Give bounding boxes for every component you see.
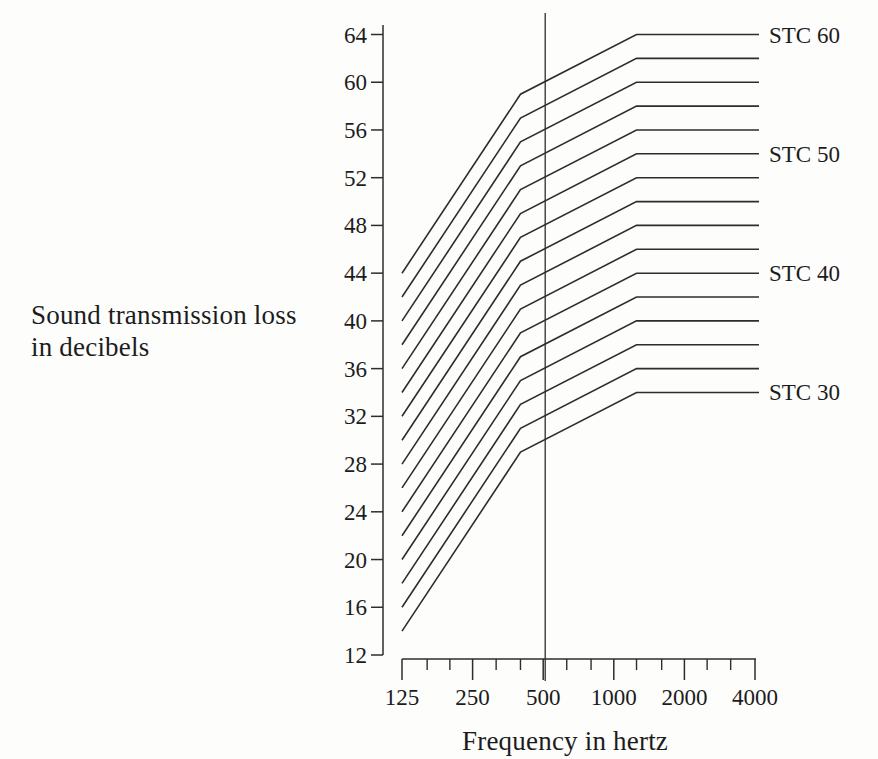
chart-canvas: STC 30STC 40STC 50STC 601216202428323640… bbox=[0, 0, 878, 759]
x-tick-label-2000: 2000 bbox=[661, 685, 707, 710]
y-tick-label-52: 52 bbox=[344, 166, 367, 191]
y-axis-title-line1: Sound transmission loss bbox=[31, 299, 297, 331]
x-tick-label-125: 125 bbox=[385, 685, 420, 710]
y-tick-label-60: 60 bbox=[344, 70, 367, 95]
stc-curve-32 bbox=[402, 369, 759, 608]
y-tick-label-44: 44 bbox=[344, 261, 368, 286]
y-tick-label-36: 36 bbox=[344, 357, 367, 382]
y-tick-label-40: 40 bbox=[344, 309, 367, 334]
stc-label-30: STC 30 bbox=[769, 380, 840, 405]
y-axis-title: Sound transmission loss in decibels bbox=[31, 299, 297, 363]
stc-curve-36 bbox=[402, 321, 759, 560]
y-tick-label-48: 48 bbox=[344, 213, 367, 238]
stc-label-40: STC 40 bbox=[769, 261, 840, 286]
y-tick-label-20: 20 bbox=[344, 548, 367, 573]
stc-curve-38 bbox=[402, 297, 759, 536]
x-tick-label-250: 250 bbox=[455, 685, 490, 710]
stc-label-60: STC 60 bbox=[769, 23, 840, 48]
y-tick-label-12: 12 bbox=[344, 643, 367, 668]
y-axis-title-line2: in decibels bbox=[31, 331, 297, 363]
y-tick-label-28: 28 bbox=[344, 452, 367, 477]
stc-contours-figure: Sound transmission loss in decibels STC … bbox=[0, 0, 878, 759]
y-tick-label-32: 32 bbox=[344, 404, 367, 429]
y-tick-label-24: 24 bbox=[344, 500, 368, 525]
stc-curve-30 bbox=[402, 393, 759, 632]
x-axis-title: Frequency in hertz bbox=[462, 726, 668, 757]
x-tick-label-500: 500 bbox=[526, 685, 561, 710]
stc-label-50: STC 50 bbox=[769, 142, 840, 167]
x-tick-label-4000: 4000 bbox=[732, 685, 778, 710]
x-tick-label-1000: 1000 bbox=[591, 685, 637, 710]
y-tick-label-64: 64 bbox=[344, 23, 368, 48]
y-tick-label-56: 56 bbox=[344, 118, 367, 143]
y-tick-label-16: 16 bbox=[344, 595, 367, 620]
stc-curve-34 bbox=[402, 345, 759, 584]
